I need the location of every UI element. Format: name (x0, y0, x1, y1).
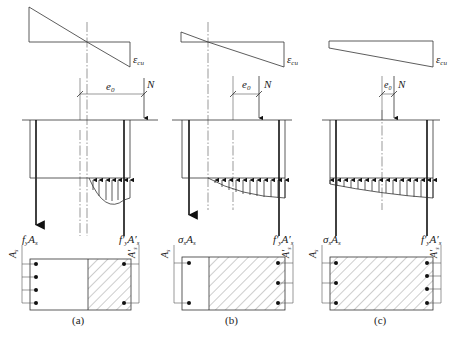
eccentricity-dimension: e0 N (379, 76, 406, 120)
svg-text:N: N (263, 78, 272, 90)
svg-text:N: N (397, 78, 406, 90)
svg-text:As: As (159, 249, 171, 259)
compression-force-label: f′yA′s (119, 233, 140, 247)
caption-b: (b) (225, 314, 238, 327)
caption-c: (c) (374, 314, 387, 327)
svg-text:σsAs: σsAs (178, 233, 196, 247)
svg-text:e0: e0 (242, 78, 251, 92)
svg-text:N: N (146, 78, 155, 90)
svg-text:εcu: εcu (436, 53, 447, 67)
cross-section: As A′s (307, 245, 441, 310)
member-elevation (182, 120, 285, 236)
eccentricity-dimension: e0 N (77, 78, 155, 120)
member-elevation (330, 120, 433, 236)
eccentric-compression-diagram: εcu e0 N (0, 0, 449, 339)
svg-text:f′yA′s: f′yA′s (273, 233, 294, 247)
compression-stress-arrows (215, 180, 285, 198)
svg-text:As: As (307, 249, 319, 259)
cross-section: As A′s (7, 245, 139, 310)
svg-text:e0: e0 (384, 79, 391, 91)
svg-text:εcu: εcu (287, 53, 298, 67)
svg-text:σsAs: σsAs (323, 233, 341, 247)
svg-text:e0: e0 (106, 80, 115, 94)
caption-a: (a) (72, 314, 85, 327)
strain-diagram: εcu (329, 41, 447, 67)
tension-rebars (174, 261, 191, 305)
strain-diagram: εcu (181, 32, 298, 67)
compression-stress-arrows (330, 180, 433, 198)
svg-text:As: As (7, 249, 19, 259)
svg-text:A′s: A′s (280, 247, 292, 259)
svg-text:A′s: A′s (126, 247, 138, 259)
panel-c: εcu e0 N (307, 41, 447, 327)
panel-b: εcu e0 N (159, 22, 298, 327)
cross-section: As A′s (159, 245, 293, 310)
svg-text:A′s: A′s (428, 247, 440, 259)
tension-force-label: fyAs (22, 233, 38, 247)
eccentricity-dimension: e0 N (230, 76, 272, 120)
strain-label: εcu (133, 53, 144, 67)
svg-text:f′yA′s: f′yA′s (421, 233, 442, 247)
panel-a: εcu e0 N (7, 7, 158, 327)
